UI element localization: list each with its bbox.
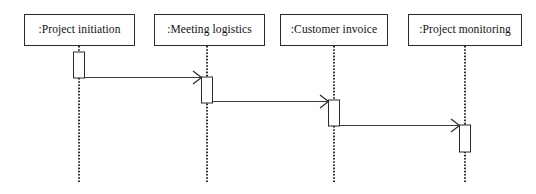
lifeline-axes: [79, 46, 465, 183]
message-initiation-to-logistics: [85, 71, 202, 84]
activation-bar-project-initiation: [74, 52, 85, 78]
lifeline-box-project-monitoring[interactable]: :Project monitoring: [408, 14, 522, 46]
activation-bar-customer-invoice: [329, 100, 340, 126]
activation-bar-meeting-logistics: [202, 77, 213, 103]
message-arrows: [85, 71, 460, 132]
lifeline-label-text: :Meeting logistics: [167, 24, 252, 36]
lifeline-label-text: :Project monitoring: [419, 24, 511, 36]
lifeline-box-meeting-logistics[interactable]: :Meeting logistics: [154, 14, 265, 46]
lifeline-box-customer-invoice[interactable]: :Customer invoice: [280, 14, 388, 46]
sequence-diagram-canvas: :Project initiation :Meeting logistics :…: [0, 0, 536, 194]
lifeline-label-text: :Project initiation: [38, 24, 120, 36]
message-invoice-to-monitoring: [340, 119, 460, 132]
lifeline-label-text: :Customer invoice: [291, 24, 377, 36]
lifeline-box-project-initiation[interactable]: :Project initiation: [24, 14, 135, 46]
activation-bar-project-monitoring: [460, 125, 471, 152]
message-logistics-to-invoice: [213, 95, 329, 108]
